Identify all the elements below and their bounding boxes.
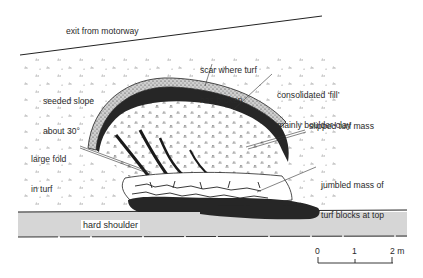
label-jumbled-line2: turf blocks at top bbox=[321, 210, 384, 220]
label-large-fold: large fold in turf bbox=[31, 134, 66, 204]
scale-bar bbox=[318, 257, 393, 263]
label-slipped-turf-mass: slipped turf mass bbox=[309, 121, 374, 131]
label-jumbled-mass: jumbled mass of turf blocks at top bbox=[321, 160, 384, 230]
label-exit-from-motorway: exit from motorway bbox=[66, 26, 139, 36]
label-fold-line1: large fold bbox=[31, 154, 66, 164]
scale-tick-1: 1 bbox=[352, 246, 357, 256]
label-scar-line1: scar where turf bbox=[200, 65, 257, 75]
label-scar: scar where turf has broken bbox=[200, 45, 257, 115]
label-fill-line1: consolidated ‘fill’ bbox=[277, 90, 351, 100]
label-hard-shoulder: hard shoulder bbox=[81, 220, 140, 230]
scale-tick-2m: 2 m bbox=[390, 246, 404, 256]
label-jumbled-line1: jumbled mass of bbox=[321, 180, 384, 190]
scale-tick-0: 0 bbox=[315, 246, 320, 256]
label-fold-line2: in turf bbox=[31, 184, 66, 194]
label-seeded-slope-line1: seeded slope bbox=[43, 96, 94, 106]
label-scar-line2: has broken bbox=[200, 95, 257, 105]
